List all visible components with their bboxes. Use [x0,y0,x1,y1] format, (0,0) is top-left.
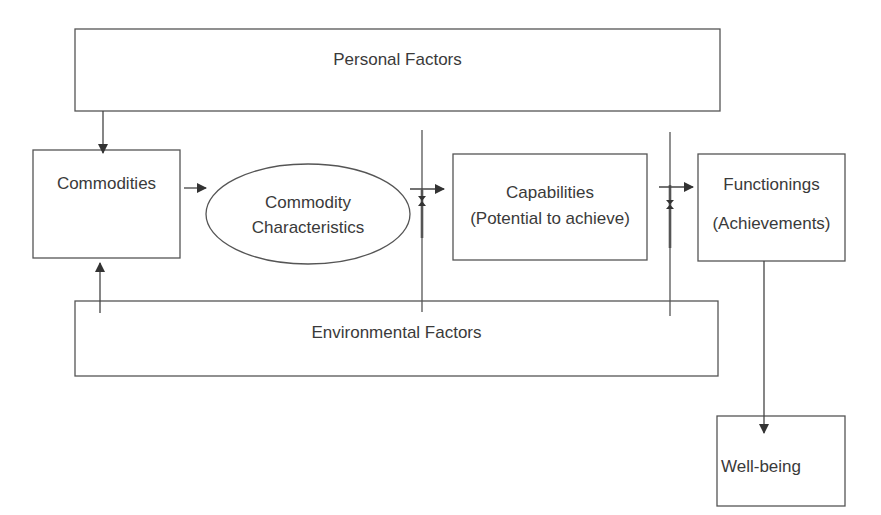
capabilities-line1: Capabilities [453,182,647,204]
conversion-marker-icon-2 [666,200,674,209]
capabilities-box [453,154,647,260]
functionings-line2: (Achievements) [696,213,847,235]
commodities-box [33,150,180,258]
commodity-characteristics-line2: Characteristics [206,217,410,239]
commodities-label: Commodities [33,173,180,195]
environmental-factors-label: Environmental Factors [75,322,718,344]
conversion-marker-icon-1 [418,196,426,206]
capabilities-line2: (Potential to achieve) [450,208,650,230]
commodity-characteristics-ellipse [206,164,410,264]
well-being-label: Well-being [720,456,802,478]
functionings-line1: Functionings [698,174,845,196]
diagram-canvas [0,0,881,515]
personal-factors-label: Personal Factors [75,49,720,71]
functionings-box [698,154,845,261]
commodity-characteristics-line1: Commodity [206,192,410,214]
